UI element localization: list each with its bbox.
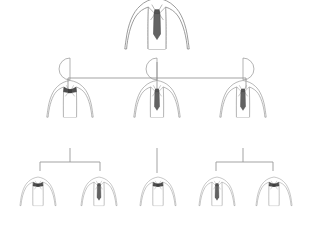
person-head-icon: [59, 58, 70, 80]
bowtie-icon: [269, 182, 279, 186]
org-chart-canvas: ExecutiveManager LeftManager CenterManag…: [0, 0, 315, 239]
org-node-n1[interactable]: Executive: [125, 0, 189, 49]
necktie-icon: [215, 184, 219, 201]
bowtie-icon: [153, 182, 163, 186]
person-suit-icon: [47, 80, 93, 117]
necktie-icon: [97, 184, 101, 201]
person-head-icon: [146, 58, 157, 80]
person-head-icon: [243, 58, 254, 80]
bowtie-icon: [33, 182, 43, 186]
person-suit-icon: [140, 177, 176, 206]
org-node-n9[interactable]: Staff Five: [256, 177, 292, 206]
org-node-n4[interactable]: Manager Right: [220, 58, 266, 117]
necktie-icon: [154, 89, 159, 110]
org-node-n6[interactable]: Staff Two: [81, 177, 117, 206]
org-chart-svg: ExecutiveManager LeftManager CenterManag…: [0, 0, 315, 239]
necktie-icon: [240, 89, 245, 110]
person-suit-icon: [256, 177, 292, 206]
org-node-n8[interactable]: Staff Four: [199, 177, 235, 206]
org-node-n7[interactable]: Staff Three: [140, 177, 176, 206]
bowtie-icon: [64, 87, 77, 93]
org-node-n5[interactable]: Staff One: [20, 177, 56, 206]
necktie-icon: [154, 10, 161, 40]
org-node-n2[interactable]: Manager Left: [47, 58, 93, 117]
person-suit-icon: [20, 177, 56, 206]
figure-group: ExecutiveManager LeftManager CenterManag…: [20, 0, 292, 206]
